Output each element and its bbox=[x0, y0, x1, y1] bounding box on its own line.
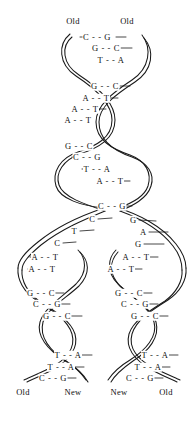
base-pair: T - - A bbox=[134, 363, 162, 372]
base-pair: T - - A bbox=[54, 351, 82, 360]
base-pair: T - - A bbox=[47, 363, 75, 372]
base-pair: C - - G bbox=[38, 374, 67, 383]
base-pair: C - - G bbox=[32, 300, 61, 309]
base-pair: A - - T bbox=[122, 253, 150, 262]
base-pair: G - - C bbox=[64, 142, 93, 151]
base-pair: T - - A bbox=[141, 351, 169, 360]
unpaired-base-left: C bbox=[54, 239, 61, 248]
unpaired-base-right: G bbox=[134, 240, 141, 249]
strand-end-label: Old bbox=[159, 388, 173, 397]
base-pair: A - - T bbox=[64, 116, 92, 125]
base-pair: C - - G bbox=[120, 300, 149, 309]
strand-end-label: New bbox=[111, 388, 128, 397]
base-pair: G - - C bbox=[91, 44, 120, 53]
unpaired-base-left: C bbox=[89, 215, 96, 224]
base-pair: G - - C bbox=[26, 289, 55, 298]
strand-end-label-old: Old bbox=[66, 17, 80, 26]
base-pair: G - - C bbox=[114, 289, 143, 298]
base-pair: C - - G bbox=[72, 153, 101, 162]
unpaired-base-right: A bbox=[139, 228, 146, 237]
base-pair: G - - C bbox=[130, 312, 159, 321]
base-pair: A - - T bbox=[96, 177, 124, 186]
base-pair: C - - G bbox=[97, 202, 126, 211]
base-pair: C - - G bbox=[125, 374, 154, 383]
unpaired-base-right: G bbox=[129, 216, 136, 225]
base-pair: A - - T bbox=[82, 94, 110, 103]
base-pair: A - - T bbox=[31, 253, 59, 262]
base-pair: A - - T bbox=[28, 265, 56, 274]
base-pair: A - - T bbox=[107, 265, 135, 274]
base-pair: T - - A bbox=[83, 165, 111, 174]
base-pair: G - - C bbox=[90, 82, 119, 91]
base-pair: T - - A bbox=[97, 56, 125, 65]
strand-end-label: Old bbox=[16, 388, 30, 397]
strand-end-label: New bbox=[65, 388, 82, 397]
strand-end-label-old: Old bbox=[120, 17, 134, 26]
unpaired-base-left: T bbox=[71, 227, 77, 236]
base-pair: C - - G bbox=[82, 33, 111, 42]
base-pair: G - - C bbox=[42, 312, 71, 321]
base-pair: A - - T bbox=[71, 105, 99, 114]
dna-replication-figure: OldOldOldNewNewOldC - - GG - - CT - - AG… bbox=[0, 0, 196, 426]
